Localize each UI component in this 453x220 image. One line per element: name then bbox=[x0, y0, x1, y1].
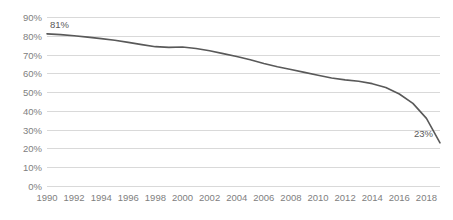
x-axis-tick-label: 2006 bbox=[253, 192, 274, 203]
x-axis-tick-label: 2004 bbox=[226, 192, 247, 203]
gridline bbox=[47, 186, 440, 187]
y-axis-tick-label: 20% bbox=[0, 143, 42, 154]
x-axis-tick-label: 2000 bbox=[172, 192, 193, 203]
series-line bbox=[47, 17, 440, 186]
data-label-start: 81% bbox=[50, 19, 69, 30]
x-axis-tick-label: 2002 bbox=[199, 192, 220, 203]
y-axis-tick-label: 60% bbox=[0, 68, 42, 79]
x-axis-tick-label: 2012 bbox=[335, 192, 356, 203]
x-axis-tick-label: 1996 bbox=[118, 192, 139, 203]
x-axis-tick-label: 1998 bbox=[145, 192, 166, 203]
x-axis-tick-label: 1994 bbox=[91, 192, 112, 203]
y-axis-tick-label: 90% bbox=[0, 12, 42, 23]
y-axis-tick-label: 80% bbox=[0, 30, 42, 41]
x-axis-tick-label: 2010 bbox=[307, 192, 328, 203]
y-axis-tick-label: 50% bbox=[0, 87, 42, 98]
x-axis-tick-label: 2008 bbox=[280, 192, 301, 203]
data-label-end: 23% bbox=[414, 128, 433, 139]
y-axis-tick-label: 70% bbox=[0, 49, 42, 60]
y-axis-tick-label: 30% bbox=[0, 124, 42, 135]
line-chart: 0%10%20%30%40%50%60%70%80%90% 1990199219… bbox=[0, 0, 453, 220]
x-axis-tick-label: 2016 bbox=[389, 192, 410, 203]
y-axis-tick-label: 40% bbox=[0, 105, 42, 116]
plot-area bbox=[47, 17, 440, 186]
x-axis-tick-label: 2018 bbox=[416, 192, 437, 203]
y-axis-tick-label: 0% bbox=[0, 181, 42, 192]
y-axis-tick-label: 10% bbox=[0, 162, 42, 173]
x-axis-tick-label: 2014 bbox=[362, 192, 383, 203]
x-axis-tick-label: 1990 bbox=[36, 192, 57, 203]
x-axis-tick-label: 1992 bbox=[64, 192, 85, 203]
